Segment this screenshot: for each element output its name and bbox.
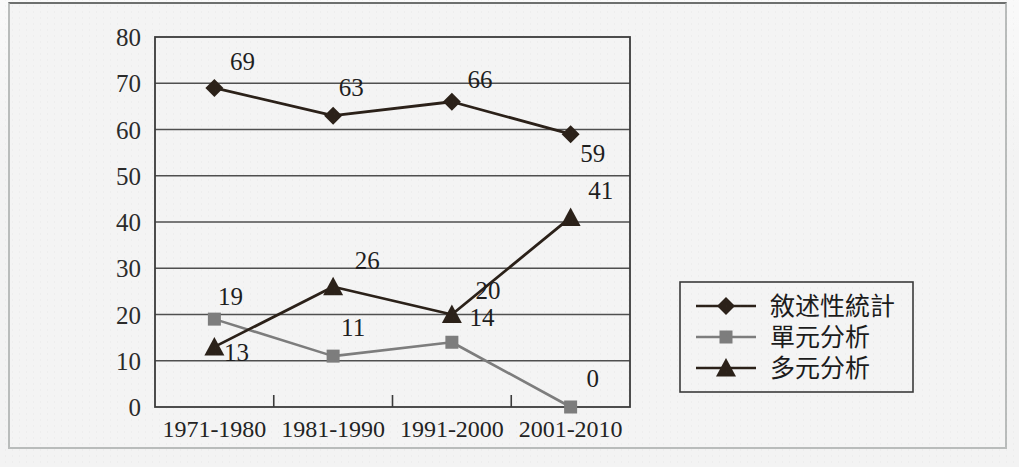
y-axis-tick-label: 0 — [129, 394, 142, 421]
y-axis-tick-label: 30 — [116, 255, 141, 282]
y-axis-tick-label: 60 — [116, 117, 141, 144]
legend-item-label: 敘述性統計 — [770, 292, 895, 320]
data-value-label: 11 — [341, 314, 365, 341]
y-axis-tick-label: 10 — [116, 348, 141, 375]
data-value-label: 59 — [580, 140, 605, 167]
data-value-label: 13 — [224, 339, 249, 366]
y-axis-tick-label: 20 — [116, 302, 141, 329]
y-axis-tick-label: 50 — [116, 163, 141, 190]
data-value-label: 19 — [218, 283, 243, 310]
square-marker — [564, 401, 577, 414]
y-axis-tick-label: 80 — [116, 24, 141, 51]
y-axis-tick-label: 40 — [116, 209, 141, 236]
square-marker — [208, 313, 221, 326]
legend-item-label: 單元分析 — [770, 323, 870, 351]
square-marker — [445, 336, 458, 349]
data-value-label: 26 — [355, 247, 380, 274]
x-axis-category-label: 1981-1990 — [281, 416, 385, 442]
x-axis-category-label: 2001-2010 — [519, 416, 623, 442]
data-value-label: 66 — [467, 66, 492, 93]
y-axis-tick-label: 70 — [116, 70, 141, 97]
x-axis-category-label: 1991-2000 — [400, 416, 504, 442]
data-value-label: 20 — [475, 277, 500, 304]
data-value-label: 41 — [588, 177, 613, 204]
data-value-label: 63 — [339, 74, 364, 101]
data-value-label: 14 — [469, 304, 495, 331]
chart-figure: 80706050403020100 1971-19801981-19901991… — [0, 0, 1019, 467]
y-axis-tick-labels: 80706050403020100 — [116, 24, 141, 421]
data-value-label: 0 — [586, 365, 599, 392]
x-axis-category-label: 1971-1980 — [162, 416, 266, 442]
x-axis-category-labels: 1971-19801981-19901991-20002001-2010 — [162, 416, 622, 442]
line-chart: 80706050403020100 1971-19801981-19901991… — [0, 0, 1019, 467]
chart-legend: 敘述性統計單元分析多元分析 — [680, 282, 913, 392]
legend-item-label: 多元分析 — [770, 354, 870, 382]
square-marker — [720, 331, 733, 344]
square-marker — [327, 350, 340, 363]
data-value-label: 69 — [230, 48, 255, 75]
